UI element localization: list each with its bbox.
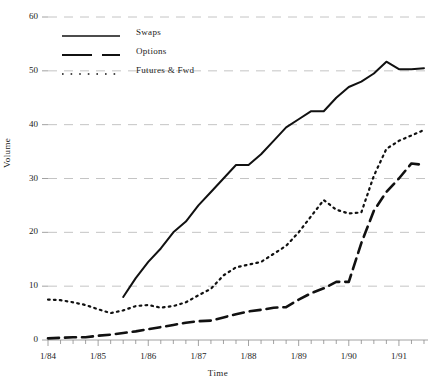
x-tick-label-1-91: 1/91 xyxy=(379,351,419,361)
y-tick-label-30: 30 xyxy=(14,173,38,183)
x-tick-label-1-89: 1/89 xyxy=(279,351,319,361)
legend-item-futures: Futures & Fwd xyxy=(60,60,194,79)
x-tick-label-1-84: 1/84 xyxy=(28,351,68,361)
x-tick-label-1-90: 1/90 xyxy=(329,351,369,361)
y-tick-label-0: 0 xyxy=(14,334,38,344)
y-tick-label-60: 60 xyxy=(14,11,38,21)
y-axis-title: Volume xyxy=(2,138,12,168)
legend-label-swaps: Swaps xyxy=(136,27,161,37)
x-tick-label-1-87: 1/87 xyxy=(178,351,218,361)
series-line-futures-fwd xyxy=(48,130,424,313)
series-line-options xyxy=(48,163,424,338)
x-tick-label-1-86: 1/86 xyxy=(128,351,168,361)
legend-key-solid-icon xyxy=(60,27,122,37)
x-tick-label-1-85: 1/85 xyxy=(78,351,118,361)
y-tick-label-10: 10 xyxy=(14,280,38,290)
y-tick-label-40: 40 xyxy=(14,119,38,129)
line-chart: Volume Time 0102030405060 1/841/851/861/… xyxy=(0,0,436,385)
legend-item-swaps: Swaps xyxy=(60,22,194,41)
x-axis-title: Time xyxy=(0,368,436,378)
chart-legend: Swaps Options Futures & Fwd xyxy=(60,22,194,79)
legend-item-options: Options xyxy=(60,41,194,60)
legend-label-options: Options xyxy=(136,46,167,56)
y-tick-label-50: 50 xyxy=(14,65,38,75)
series-line-swaps xyxy=(123,62,424,297)
legend-key-dotted-icon xyxy=(60,65,122,75)
x-tick-label-1-88: 1/88 xyxy=(229,351,269,361)
legend-key-dashed-icon xyxy=(60,46,122,56)
legend-label-futures: Futures & Fwd xyxy=(136,65,194,75)
y-tick-label-20: 20 xyxy=(14,226,38,236)
